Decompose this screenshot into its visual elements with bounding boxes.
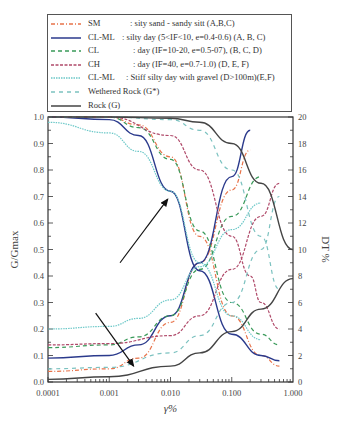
left-tick-label: 0.2 [33,324,44,334]
chart-plot: 0.00010.0010.0100.1001.0000.00.10.20.30.… [0,0,346,426]
damping-curve [48,130,250,358]
x-tick-label: 0.001 [100,388,119,398]
left-tick-label: 0.5 [33,245,44,255]
x-tick-label: 0.0001 [36,388,59,398]
right-tick-label: 6 [298,298,302,308]
modulus-curve [48,117,279,289]
x-tick-label: 0.010 [161,388,180,398]
left-tick-label: 0.0 [33,377,44,387]
right-tick-label: 2 [298,351,302,361]
left-tick-label: 0.9 [33,139,44,149]
left-tick-label: 0.3 [33,298,44,308]
right-tick-label: 8 [298,271,302,281]
left-tick-label: 1.0 [33,112,44,122]
modulus-curve [48,117,279,345]
right-tick-label: 14 [298,192,307,202]
right-axis-title: DT % [320,236,332,262]
x-tick-label: 0.100 [222,388,241,398]
right-tick-label: 10 [298,245,307,255]
damping-curve [48,203,261,329]
right-tick-label: 12 [298,218,307,228]
damping-curve [48,177,261,348]
left-tick-label: 0.1 [33,351,44,361]
damping-curve [48,183,279,345]
left-tick-label: 0.4 [33,271,44,281]
modulus-curve [48,117,279,329]
left-tick-label: 0.7 [33,192,44,202]
right-tick-label: 20 [298,112,307,122]
modulus-curve [48,117,293,250]
annotation-arrow [120,199,168,263]
left-axis-title: G/Gmax [8,230,20,268]
plot-frame [48,117,293,382]
modulus-curve [48,117,279,361]
left-tick-label: 0.6 [33,218,44,228]
modulus-curve [48,117,279,366]
right-tick-label: 16 [298,165,307,175]
right-tick-label: 0 [298,377,302,387]
x-tick-label: 1.000 [283,388,302,398]
right-tick-label: 18 [298,139,307,149]
modulus-curve [48,122,261,339]
left-tick-label: 0.8 [33,165,44,175]
annotation-arrow [96,313,134,366]
right-tick-label: 4 [298,324,303,334]
x-axis-title: γ% [164,402,178,414]
